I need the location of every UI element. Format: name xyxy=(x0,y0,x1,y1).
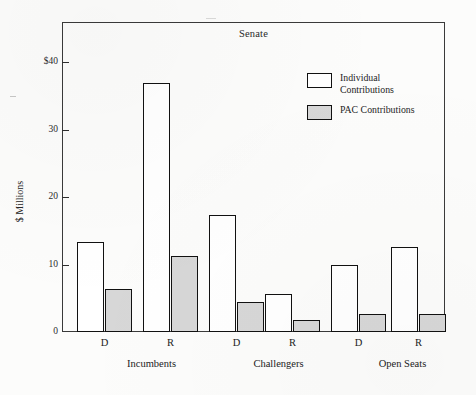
bar-individual[interactable] xyxy=(391,247,418,332)
x-axis-group-label: Incumbents xyxy=(92,358,212,369)
bar-pac[interactable] xyxy=(237,302,264,332)
y-axis-tick-mark xyxy=(62,265,69,266)
legend-swatch-pac xyxy=(307,105,332,120)
x-axis-tick-label: D xyxy=(339,337,379,348)
bar-pac[interactable] xyxy=(293,320,320,332)
bar-individual[interactable] xyxy=(77,242,104,332)
bar-individual[interactable] xyxy=(209,215,236,332)
legend-label: Individual Contributions xyxy=(340,72,394,95)
bar-pac[interactable] xyxy=(419,314,446,332)
bar-pac[interactable] xyxy=(359,314,386,332)
x-axis-tick-label: D xyxy=(85,337,125,348)
x-axis-group-label: Open Seats xyxy=(343,358,463,369)
chart-legend: Individual ContributionsPAC Contribution… xyxy=(307,72,457,129)
x-axis-tick-label: R xyxy=(151,337,191,348)
legend-item: PAC Contributions xyxy=(307,104,457,120)
y-axis-tick-label: 30 xyxy=(14,125,58,135)
y-axis-tick-label: 10 xyxy=(14,260,58,270)
legend-item: Individual Contributions xyxy=(307,72,457,95)
x-axis-group-label: Challengers xyxy=(219,358,339,369)
bar-individual[interactable] xyxy=(265,294,292,332)
plot-area xyxy=(62,22,445,332)
y-axis-tick-mark xyxy=(62,130,69,131)
y-axis-tick-mark xyxy=(62,62,69,63)
x-axis-tick-label: R xyxy=(273,337,313,348)
y-axis-title: $ Millions xyxy=(14,147,25,257)
y-axis-tick-label: $40 xyxy=(14,57,58,67)
x-axis-tick-label: D xyxy=(217,337,257,348)
scanned-page-canvas: Senate $403020100 $ Millions DRDRDRIncum… xyxy=(0,0,476,395)
legend-swatch-individual xyxy=(307,73,332,88)
scan-speck xyxy=(206,18,216,19)
legend-label: PAC Contributions xyxy=(340,104,415,116)
bar-pac[interactable] xyxy=(105,289,132,332)
bar-pac[interactable] xyxy=(171,256,198,332)
y-axis-tick-label: 0 xyxy=(14,327,58,337)
chart-title: Senate xyxy=(62,28,445,39)
bar-individual[interactable] xyxy=(331,265,358,332)
bar-individual[interactable] xyxy=(143,83,170,332)
y-axis-tick-mark xyxy=(62,197,69,198)
x-axis-tick-label: R xyxy=(399,337,439,348)
